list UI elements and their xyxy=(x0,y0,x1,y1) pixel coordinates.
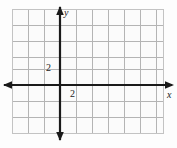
y-axis-tick-label-2: 2 xyxy=(46,63,51,73)
x-axis-tick-label-2: 2 xyxy=(70,89,75,99)
grid-area xyxy=(12,9,164,134)
coordinate-grid-svg xyxy=(0,0,177,148)
x-axis-label: x xyxy=(167,90,171,100)
y-axis-label: y xyxy=(64,8,68,18)
coordinate-plane-figure: y x 2 2 xyxy=(0,0,177,148)
